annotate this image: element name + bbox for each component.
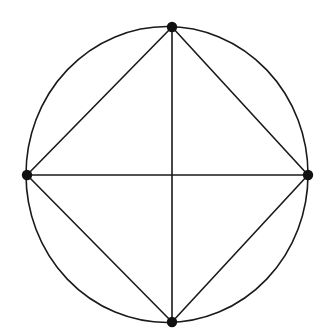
vertex-right bbox=[303, 170, 313, 180]
vertex-left bbox=[22, 170, 32, 180]
vertex-bottom bbox=[167, 317, 177, 327]
diagram-canvas bbox=[0, 0, 327, 336]
background-rect bbox=[0, 0, 327, 336]
inscribed-square-figure bbox=[0, 0, 327, 336]
vertex-top bbox=[167, 22, 177, 32]
